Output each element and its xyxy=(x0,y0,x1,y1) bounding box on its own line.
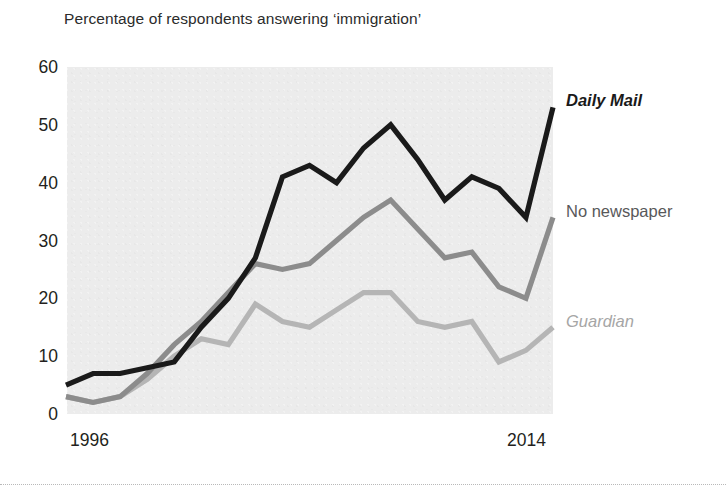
series-label-guardian: Guardian xyxy=(566,312,634,331)
series-line-guardian xyxy=(66,293,553,403)
x-axis-tick-label: 2014 xyxy=(507,430,546,451)
series-label-daily-mail: Daily Mail xyxy=(566,91,642,110)
bottom-dotted-rule xyxy=(0,484,726,485)
x-axis-tick-label: 1996 xyxy=(70,430,109,451)
chart-series-layer xyxy=(0,0,726,494)
x-axis: 19962014 xyxy=(0,430,726,460)
immigration-line-chart: Percentage of respondents answering ‘imm… xyxy=(0,0,726,494)
series-line-daily-mail xyxy=(66,107,553,385)
series-label-no-newspaper: No newspaper xyxy=(566,202,672,221)
